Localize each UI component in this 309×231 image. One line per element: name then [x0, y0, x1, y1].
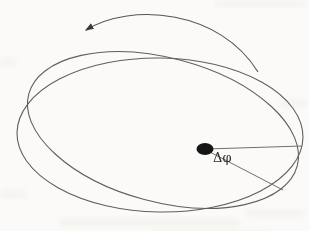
orbit-ellipse-2 — [10, 24, 309, 231]
orbit-ellipse-1 — [16, 56, 305, 215]
central-mass-dot — [197, 143, 214, 155]
apsis-line-1 — [206, 146, 302, 149]
scanned-figure-page: Δφ — [0, 0, 309, 231]
direction-arrow — [86, 15, 258, 72]
orbit-precession-figure: Δφ — [0, 0, 309, 231]
precession-angle-label: Δφ — [213, 150, 232, 165]
scan-noise — [0, 1, 306, 231]
